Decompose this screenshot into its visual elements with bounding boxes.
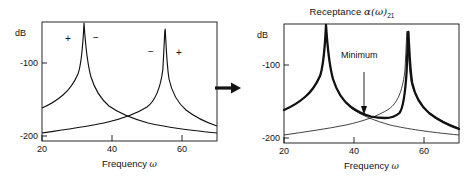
sign-plus-mode2: + xyxy=(176,48,182,58)
sign-minus-mode1: − xyxy=(93,33,99,43)
x-axis-title-right: Frequency ω xyxy=(304,160,439,171)
sign-plus-mode1: + xyxy=(65,34,71,44)
x-tick-label-left-40: 40 xyxy=(98,144,126,154)
x-tick-label-right-60: 60 xyxy=(410,146,438,156)
omega-symbol-right: ω xyxy=(392,161,399,171)
x-tick-label-left-20: 20 xyxy=(28,144,56,154)
receptance-figure: dB -100 -200 + − − + 20 40 60 Frequency xyxy=(0,0,476,179)
x-axis-title-left: Frequency ω xyxy=(62,158,197,169)
transition-arrow xyxy=(214,78,242,98)
minimum-annotation-label: Minimum xyxy=(341,50,378,60)
x-tick-label-right-40: 40 xyxy=(340,146,368,156)
curve-summed-receptance xyxy=(284,25,459,129)
x-tick-label-right-20: 20 xyxy=(270,146,298,156)
panel-left: dB -100 -200 + − − + 20 40 60 Frequency xyxy=(0,0,232,179)
curve-mode-2-right xyxy=(284,31,459,135)
x-axis-title-text-right: Frequency xyxy=(344,160,389,171)
x-axis-title-text-left: Frequency xyxy=(102,158,147,169)
sign-minus-mode2: − xyxy=(148,47,154,57)
curve-mode-1-right xyxy=(284,25,459,135)
omega-symbol-left: ω xyxy=(150,159,157,169)
panel-right: Receptance α(ω)21 dB -100 -200 Minimum 2… xyxy=(240,0,476,179)
plot-frame-right xyxy=(284,24,459,143)
x-tick-label-left-60: 60 xyxy=(168,144,196,154)
